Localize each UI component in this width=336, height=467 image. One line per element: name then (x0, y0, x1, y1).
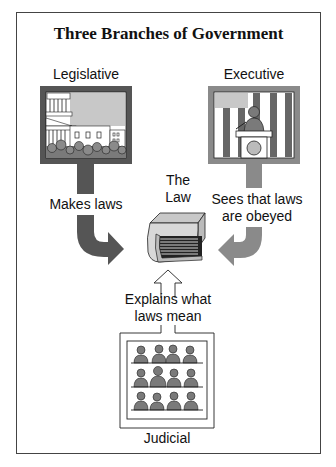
judicial-action-line1: Explains what (108, 291, 228, 308)
executive-connector (246, 164, 262, 188)
diagram-artwork (0, 0, 336, 467)
legislative-action-label: Makes laws (40, 196, 132, 213)
law-label: The Law (158, 172, 198, 206)
judicial-action-label: Explains what laws mean (108, 291, 228, 325)
law-book-icon (147, 213, 205, 262)
judicial-label: Judicial (120, 430, 214, 447)
executive-action-label: Sees that laws are obeyed (202, 191, 312, 225)
executive-arrow-icon (218, 227, 262, 266)
law-label-line2: Law (158, 189, 198, 206)
capitol-icon (40, 86, 132, 164)
executive-action-line1: Sees that laws (202, 191, 312, 208)
judges-panel-icon (127, 341, 207, 419)
judicial-action-line2: laws mean (108, 308, 228, 325)
legislative-arrow-icon (77, 215, 124, 265)
legislative-connector (77, 164, 94, 194)
law-label-line1: The (158, 172, 198, 189)
executive-action-line2: are obeyed (202, 208, 312, 225)
podium-flag-icon (208, 86, 300, 164)
